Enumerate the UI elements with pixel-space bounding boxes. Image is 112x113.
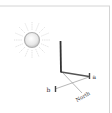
line-a-to-b (55, 77, 89, 89)
sun-icon (14, 22, 50, 58)
label-b: b (47, 86, 51, 93)
vertical-stick (61, 41, 62, 73)
diagram-canvas: a b North (0, 0, 112, 113)
label-a: a (93, 73, 97, 80)
label-north: North (75, 90, 92, 103)
